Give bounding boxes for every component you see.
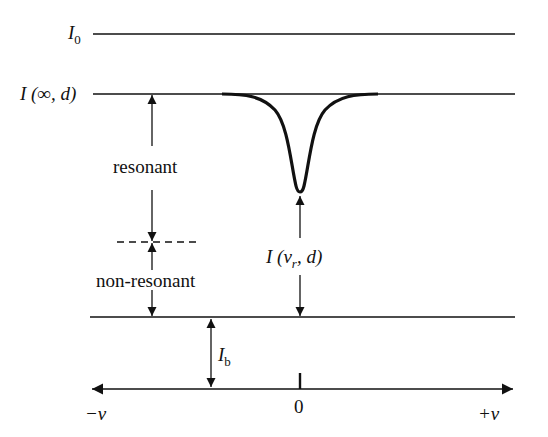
resonance-dip-curve (222, 94, 378, 192)
axis-plus-nu-label: +ν (478, 404, 499, 423)
i-vr-label: I (vr, d) (266, 247, 322, 270)
axis-minus-nu-label: −ν (85, 404, 106, 423)
i-inf-label: I (∞, d) (20, 84, 76, 103)
diagram-canvas (0, 0, 548, 437)
ib-label: Ib (218, 345, 231, 368)
non-resonant-label: non-resonant (96, 271, 195, 290)
axis-zero-label: 0 (294, 397, 304, 416)
resonant-label: resonant (113, 157, 177, 176)
i0-label: I0 (68, 23, 81, 46)
